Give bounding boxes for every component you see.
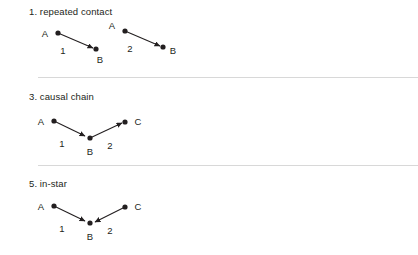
node-b (87, 220, 92, 225)
node-label-a: A (38, 116, 45, 127)
node-a (55, 30, 60, 35)
node-label-a: A (38, 201, 45, 212)
panel-out-star: 6. out-star A B C 1 2 (209, 172, 418, 242)
section-divider-2 (38, 165, 418, 166)
node-c (122, 119, 127, 124)
node-label-c: C (135, 201, 142, 212)
node-b (93, 46, 98, 51)
figure-row-1: 1. repeated contact A B 1 (0, 0, 418, 73)
node-label-a: A (109, 20, 116, 31)
edge-label-1: 1 (59, 138, 64, 149)
panel-non-causal-chain: 4. non-causal chain A B C 2 1 (209, 85, 418, 160)
node-a (51, 203, 56, 208)
node-label-b: B (170, 45, 176, 56)
node-label-a: A (42, 28, 49, 39)
node-label-c: C (135, 116, 142, 127)
edge-label-2: 2 (107, 140, 112, 151)
graph-3: A B C 1 2 (30, 113, 160, 159)
graph-5: A B C 1 2 (30, 198, 160, 244)
panel-repeated-contact: 1. repeated contact A B 1 (0, 0, 209, 73)
node-label-b: B (87, 231, 93, 242)
edge-a-to-b (54, 206, 85, 221)
edge-c-to-b (95, 207, 125, 222)
edge-b-to-c (90, 123, 122, 138)
edge-label-1: 1 (60, 45, 65, 56)
node-label-b: B (87, 146, 93, 157)
node-c (122, 204, 127, 209)
edge-label-1: 1 (59, 223, 64, 234)
figure-row-3: 5. in-star A B C 1 2 6. out-star (0, 172, 418, 242)
node-a (51, 118, 56, 123)
node-a (122, 28, 127, 33)
panel-returned-contact: 2. returned contact A B 1 A B (209, 0, 418, 73)
panel-in-star: 5. in-star A B C 1 2 (0, 172, 209, 242)
section-divider-1 (38, 77, 418, 78)
micro-structure-figure: 1. repeated contact A B 1 (0, 0, 418, 255)
graph-1b: A B 2 (103, 22, 193, 68)
node-b (87, 135, 92, 140)
panel-title-3: 3. causal chain (29, 91, 94, 102)
node-b (160, 44, 165, 49)
edge-label-2: 2 (127, 43, 132, 54)
figure-row-2: 3. causal chain A B C 1 2 4. non-causal … (0, 85, 418, 160)
panel-title-1: 1. repeated contact (29, 6, 112, 17)
edge-a-to-b (54, 121, 85, 136)
edge-label-2: 2 (107, 225, 112, 236)
panel-title-5: 5. in-star (29, 178, 67, 189)
panel-causal-chain: 3. causal chain A B C 1 2 (0, 85, 209, 160)
